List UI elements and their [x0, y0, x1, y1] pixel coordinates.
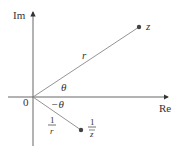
re-axis-label: Re: [159, 102, 171, 114]
z-label: z: [145, 20, 151, 32]
origin-label: 0: [23, 96, 29, 108]
point-inverse-denominator: z: [89, 129, 94, 139]
modulus-inverse-numerator: 1: [50, 115, 55, 125]
complex-plane-diagram: Im Re 0 z r θ −θ 1 r 1 z: [0, 0, 180, 148]
point-inverse-conjugate: [79, 128, 83, 132]
ray-to-z: [33, 27, 139, 97]
modulus-r-label: r: [82, 49, 87, 61]
theta-label: θ: [61, 81, 67, 93]
point-inverse-numerator: 1: [90, 117, 95, 127]
point-z: [137, 25, 141, 29]
modulus-inverse-denominator: r: [50, 126, 54, 136]
neg-theta-label: −θ: [51, 98, 64, 110]
im-axis-label: Im: [13, 9, 26, 21]
